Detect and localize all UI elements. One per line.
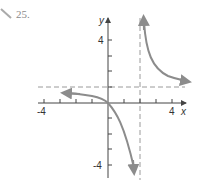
rational-function-graph: -4 4 x 4 -4 y: [0, 0, 199, 184]
left-branch-curve: [64, 93, 134, 168]
y-axis-label: y: [98, 15, 105, 26]
x-tick-label-neg4: -4: [37, 106, 46, 117]
y-tick-label-neg4: -4: [93, 160, 102, 171]
y-tick-label-4: 4: [98, 35, 104, 46]
right-branch-curve: [144, 22, 186, 81]
x-axis-label: x: [180, 106, 187, 117]
x-tick-label-4: 4: [169, 106, 175, 117]
